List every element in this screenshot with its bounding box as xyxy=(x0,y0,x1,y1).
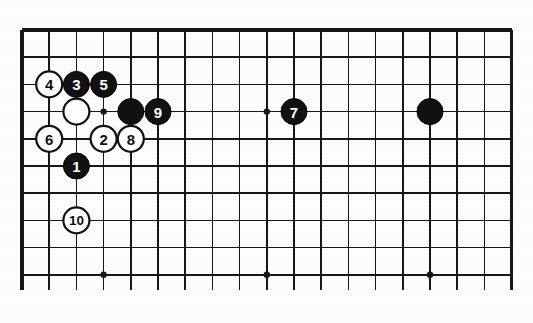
stone-body xyxy=(91,71,117,97)
stone-body xyxy=(145,99,171,125)
stone-white-plain[interactable] xyxy=(63,99,89,125)
stone-black-3[interactable]: 3 xyxy=(63,71,89,97)
stone-body xyxy=(118,126,144,152)
stone-body xyxy=(63,99,89,125)
star-point xyxy=(264,108,270,114)
stone-white-4[interactable]: 4 xyxy=(36,71,62,97)
stone-black-plain[interactable] xyxy=(417,99,443,125)
stone-body xyxy=(63,71,89,97)
board-grid xyxy=(22,30,512,290)
stone-body xyxy=(281,99,307,125)
stone-white-6[interactable]: 6 xyxy=(36,126,62,152)
stone-body xyxy=(63,153,89,179)
star-point xyxy=(427,272,433,278)
stone-white-10[interactable]: 10 xyxy=(63,207,89,233)
stone-black-9[interactable]: 9 xyxy=(145,99,171,125)
stone-body xyxy=(118,99,144,125)
stone-body xyxy=(91,126,117,152)
stone-black-7[interactable]: 7 xyxy=(281,99,307,125)
go-board-canvas: 43597628110 xyxy=(0,0,533,323)
stone-black-plain[interactable] xyxy=(118,99,144,125)
stone-white-8[interactable]: 8 xyxy=(118,126,144,152)
stone-body xyxy=(63,207,89,233)
go-board-diagram: 43597628110 xyxy=(0,0,533,323)
star-point xyxy=(264,272,270,278)
stone-body xyxy=(36,71,62,97)
star-point xyxy=(100,272,106,278)
stone-black-5[interactable]: 5 xyxy=(91,71,117,97)
stone-white-2[interactable]: 2 xyxy=(91,126,117,152)
stone-black-1[interactable]: 1 xyxy=(63,153,89,179)
star-point xyxy=(100,108,106,114)
stone-body xyxy=(417,99,443,125)
stone-body xyxy=(36,126,62,152)
